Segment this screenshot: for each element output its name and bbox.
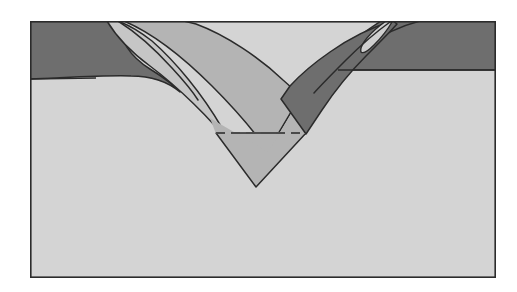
geologic-cross-section-figure bbox=[0, 0, 517, 292]
left-cap-base-contact bbox=[30, 78, 96, 79]
cross-section-canvas bbox=[0, 0, 517, 292]
